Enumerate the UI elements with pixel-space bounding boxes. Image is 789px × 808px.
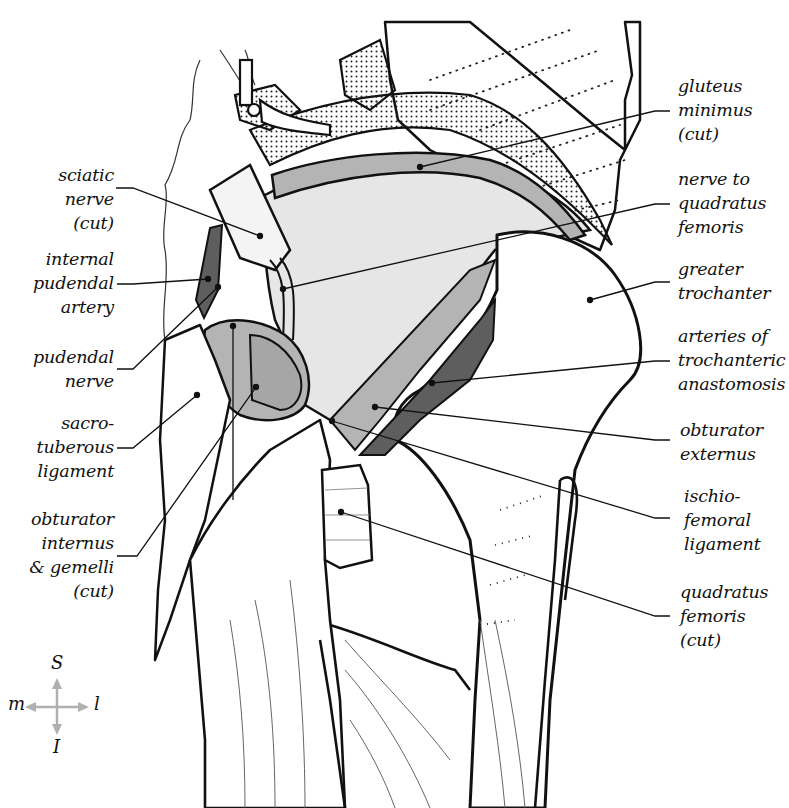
orientation-compass (25, 678, 89, 735)
leader-internal-pudendal-artery (117, 279, 208, 284)
label-ischiofemoral-ligament: ischio- femoral ligament (684, 484, 760, 556)
label-quadratus-femoris: quadratus femoris (cut) (680, 580, 768, 652)
hip-joint-illustration (0, 0, 789, 808)
label-arteries-trochanteric-anastomosis: arteries of trochanteric anastomosis (678, 324, 785, 396)
compass-inferior-label: I (53, 736, 60, 757)
label-greater-trochanter: greater trochanter (678, 257, 770, 305)
label-nerve-to-quadratus-femoris: nerve to quadratus femoris (678, 167, 766, 239)
label-obturator-internus-gemelli: obturator internus & gemelli (cut) (29, 507, 114, 603)
label-gluteus-minimus: gluteus minimus (cut) (678, 74, 753, 146)
label-pudendal-nerve: pudendal nerve (33, 345, 114, 393)
compass-superior-label: S (51, 652, 63, 673)
label-internal-pudendal-artery: internal pudendal artery (33, 247, 114, 319)
label-sacrotuberous-ligament: sacro- tuberous ligament (37, 411, 114, 483)
label-sciatic-nerve: sciatic nerve (cut) (58, 163, 114, 235)
label-obturator-externus: obturator externus (680, 418, 763, 466)
quadratus-femoris-shape (322, 465, 372, 568)
compass-lateral-label: l (94, 693, 100, 714)
compass-medial-label: m (8, 693, 25, 714)
